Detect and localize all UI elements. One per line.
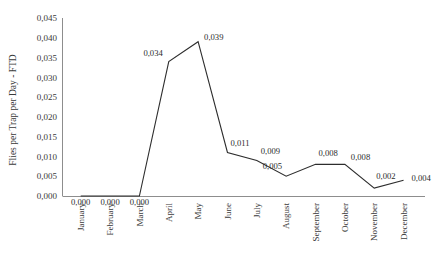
x-axis-category-label: June <box>223 203 233 220</box>
y-axis-tick-label: 0,040 <box>37 33 58 43</box>
x-axis-category-label: July <box>252 203 262 219</box>
x-axis-category-label: March <box>135 203 145 227</box>
x-axis-category-label: February <box>105 203 115 236</box>
y-axis-tick-label: 0,030 <box>37 73 58 83</box>
x-axis-category-label: August <box>281 203 291 230</box>
data-point-label: 0,005 <box>263 161 282 171</box>
y-axis-tick-label: 0,045 <box>37 13 58 23</box>
data-point-label: 0,009 <box>261 146 280 156</box>
x-axis-category-labels: JanuaryFebruaryMarchAprilMayJuneJulyAugu… <box>76 203 409 242</box>
y-axis-tick-label: 0,035 <box>37 53 58 63</box>
x-axis-category-label: December <box>399 203 409 240</box>
data-point-label: 0,004 <box>412 173 432 183</box>
y-axis-title-label: Flies per Trap per Day - FTD <box>8 54 18 165</box>
y-axis-tick-label: 0,010 <box>37 152 58 162</box>
y-axis-tick-label: 0,005 <box>37 171 58 181</box>
y-axis-tick-label: 0,025 <box>37 92 58 102</box>
data-series-flies-per-trap-per-day <box>81 42 404 196</box>
chart-figure: Flies per Trap per Day - FTD 0,0000,0050… <box>0 0 438 260</box>
y-axis-tick-label: 0,000 <box>37 191 58 201</box>
x-axis-category-label: April <box>164 203 174 222</box>
y-axis-tick-labels: 0,0000,0050,0100,0150,0200,0250,0300,035… <box>37 13 58 201</box>
data-point-label: 0,034 <box>143 48 163 58</box>
data-point-labels: 0,0000,0000,0000,0340,0390,0110,0090,005… <box>71 32 432 207</box>
series-line-path <box>81 42 404 196</box>
line-chart: Flies per Trap per Day - FTD 0,0000,0050… <box>0 0 438 260</box>
x-axis-category-label: May <box>193 203 203 220</box>
x-axis-category-label: November <box>369 203 379 241</box>
data-point-label: 0,008 <box>319 148 338 158</box>
x-axis-category-label: October <box>340 203 350 232</box>
data-point-label: 0,039 <box>204 32 223 42</box>
y-axis-tick-label: 0,015 <box>37 132 58 142</box>
y-axis-title: Flies per Trap per Day - FTD <box>8 54 18 165</box>
data-point-label: 0,002 <box>376 171 395 181</box>
data-point-label: 0,011 <box>230 138 249 148</box>
x-axis-category-label: January <box>76 203 86 231</box>
data-point-label: 0,008 <box>351 152 370 162</box>
y-axis-tick-label: 0,020 <box>37 112 58 122</box>
x-axis-category-label: September <box>311 203 321 242</box>
